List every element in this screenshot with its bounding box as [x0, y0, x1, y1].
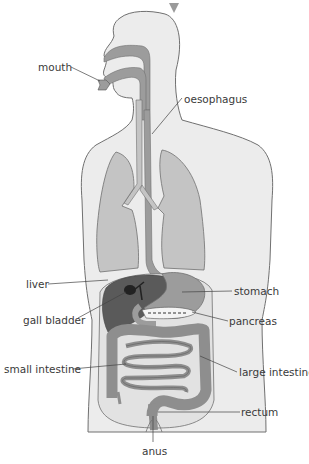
label-anus: anus	[142, 446, 167, 457]
label-large-intestine: large intestine	[239, 367, 309, 378]
label-oesophagus: oesophagus	[184, 94, 247, 105]
label-mouth: mouth	[38, 62, 72, 73]
label-liver: liver	[26, 279, 49, 290]
digestive-system-diagram: mouth oesophagus liver stomach gall blad…	[0, 0, 309, 464]
down-arrow-icon	[169, 3, 179, 13]
label-small-intestine: small intestine	[4, 364, 81, 375]
label-gall-bladder: gall bladder	[23, 315, 85, 326]
label-rectum: rectum	[241, 407, 278, 418]
appendix	[118, 392, 120, 404]
label-stomach: stomach	[234, 286, 279, 297]
label-pancreas: pancreas	[229, 316, 277, 327]
